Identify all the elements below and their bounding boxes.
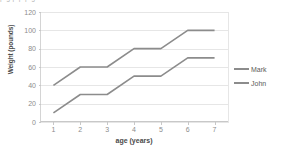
x-tick-label: 5 bbox=[153, 126, 169, 133]
legend-line-swatch-icon bbox=[234, 82, 249, 84]
x-tick-mark bbox=[53, 122, 54, 125]
legend-label: John bbox=[251, 80, 266, 87]
x-tick-label: 4 bbox=[126, 126, 142, 133]
x-tick-mark bbox=[134, 122, 135, 125]
x-tick-mark bbox=[161, 122, 162, 125]
x-tick-mark bbox=[80, 122, 81, 125]
y-tick-label: 0 bbox=[6, 119, 36, 126]
legend-item-john[interactable]: John bbox=[234, 76, 281, 90]
y-tick-label: 120 bbox=[6, 9, 36, 16]
x-tick-label: 2 bbox=[72, 126, 88, 133]
legend: MarkJohn bbox=[234, 62, 281, 90]
y-tick-mark bbox=[39, 122, 41, 123]
x-axis-title: age (years) bbox=[40, 137, 228, 144]
y-axis-title: Weight (pounds) bbox=[7, 18, 14, 82]
series-line-john bbox=[53, 58, 214, 113]
gridline bbox=[41, 122, 229, 123]
x-tick-label: 3 bbox=[99, 126, 115, 133]
y-tick-label: 20 bbox=[6, 100, 36, 107]
x-tick-label: 1 bbox=[45, 126, 61, 133]
x-tick-label: 6 bbox=[180, 126, 196, 133]
legend-label: Mark bbox=[251, 66, 267, 73]
x-tick-label: 7 bbox=[207, 126, 223, 133]
clipped-top-text: p g p p p g bbox=[0, 0, 281, 2]
y-tick-label: 40 bbox=[6, 82, 36, 89]
legend-item-mark[interactable]: Mark bbox=[234, 62, 281, 76]
legend-line-swatch-icon bbox=[234, 68, 249, 70]
x-tick-mark bbox=[107, 122, 108, 125]
line-chart: p g p p p g 020406080100120 Weight (poun… bbox=[0, 0, 281, 149]
series-lines bbox=[40, 12, 228, 122]
x-tick-mark bbox=[215, 122, 216, 125]
plot-right-edge bbox=[228, 12, 229, 122]
x-tick-mark bbox=[188, 122, 189, 125]
